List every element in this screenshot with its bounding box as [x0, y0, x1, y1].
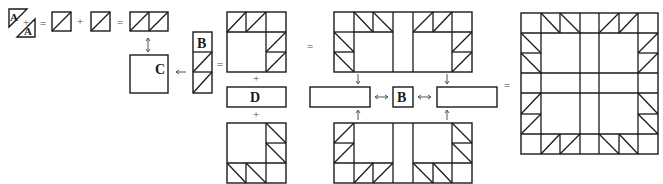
label-a-bottom: A [24, 25, 32, 37]
finished-block [521, 13, 658, 154]
equals-op-3: = [217, 58, 223, 70]
quilt-assembly-diagram: A + A = + = C [0, 0, 663, 184]
arrow-left [176, 70, 186, 74]
arrow-up-right [445, 110, 449, 120]
plus-op-2: + [77, 15, 83, 27]
equals-op-4: = [307, 40, 313, 52]
hst-pair [130, 12, 168, 31]
equals-op-5: = [504, 79, 510, 91]
arrow-down-left [356, 74, 360, 84]
equals-op-2: = [117, 16, 123, 28]
label-d: D [250, 90, 260, 105]
middle-strip-right [437, 87, 497, 107]
label-c: C [155, 62, 165, 77]
equals-op-1: = [40, 17, 46, 29]
strip-d: D [227, 87, 286, 107]
plus-op-4: + [253, 108, 259, 120]
corner-unit-bottom [227, 123, 286, 183]
double-arrow-right [418, 95, 431, 99]
label-a-top: A [10, 11, 18, 23]
middle-strip-left [310, 87, 370, 107]
top-row-assembly [334, 12, 472, 72]
hst-unit-1 [52, 12, 71, 31]
hst-unit-2 [91, 12, 110, 31]
square-c: C [130, 55, 168, 93]
double-arrow-vertical [146, 38, 150, 52]
corner-unit-top [227, 12, 286, 72]
label-b-2: B [397, 90, 406, 105]
label-b-1: B [197, 36, 206, 51]
bottom-row-assembly [334, 123, 472, 183]
plus-op-3: + [253, 72, 259, 84]
b-column-unit: B [193, 32, 212, 93]
arrow-up-left [356, 110, 360, 120]
center-square-b: B [393, 87, 413, 107]
arrow-down-right [445, 74, 449, 84]
double-arrow-left [375, 95, 388, 99]
